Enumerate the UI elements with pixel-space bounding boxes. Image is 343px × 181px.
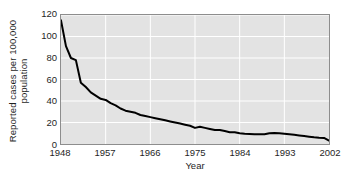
y-tick-label: 100 [31,31,57,41]
x-tick-label: 1993 [264,147,306,159]
x-axis-tick-labels: 1948195719661975198419932002 [0,147,343,161]
plot-area [60,14,330,145]
x-tick-label: 2002 [309,147,343,159]
x-tick-label: 1948 [39,147,81,159]
y-tick-label: 20 [31,118,57,128]
plot-svg [61,15,329,144]
x-tick-label: 1957 [84,147,126,159]
y-tick-label: 80 [31,53,57,63]
y-tick-label: 120 [31,9,57,19]
x-tick-label: 1975 [174,147,216,159]
y-axis-title-line-2: population [18,6,29,156]
y-axis-title-line-1: Reported cases per 100,000 [7,6,18,156]
x-tick-label: 1966 [129,147,171,159]
line-chart-figure: Reported cases per 100,000 population 02… [0,0,343,181]
y-tick-label: 40 [31,96,57,106]
x-tick-label: 1984 [219,147,261,159]
x-axis-title: Year [60,160,330,171]
y-tick-label: 60 [31,75,57,85]
